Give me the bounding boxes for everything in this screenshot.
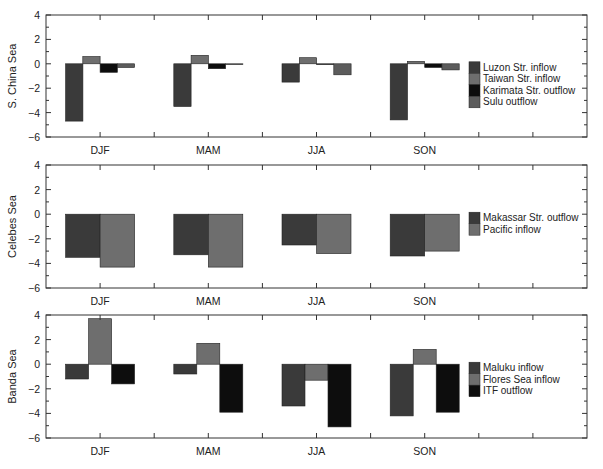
legend-label: Flores Sea inflow [483, 374, 560, 385]
bar [390, 214, 425, 256]
legend-swatch [469, 224, 480, 236]
bar [305, 364, 328, 380]
legend-label: Taiwan Str. inflow [483, 73, 561, 84]
legend-label: Pacific inflow [483, 224, 542, 235]
bar [317, 214, 352, 253]
legend-label: ITF outflow [483, 385, 533, 396]
bar [89, 319, 112, 365]
bar [208, 64, 225, 69]
bar [117, 64, 134, 68]
bar [112, 364, 135, 384]
bar [425, 214, 460, 251]
bar [425, 64, 442, 68]
bar [100, 64, 117, 73]
legend-swatch [469, 362, 480, 374]
legend: Makassar Str. outflowPacific inflow [469, 212, 579, 235]
x-tick-label: DJF [90, 445, 109, 457]
bar [407, 61, 424, 63]
bar [299, 58, 316, 64]
legend-label: Sulu outflow [483, 96, 538, 107]
y-tick-label: −6 [28, 131, 40, 143]
x-tick-label: JJA [308, 445, 326, 457]
bar [282, 64, 299, 82]
bar [334, 64, 351, 75]
bar [197, 343, 220, 364]
bar [174, 214, 209, 255]
legend-swatch [469, 73, 480, 85]
x-tick-label: DJF [90, 144, 109, 156]
x-tick-label: SON [413, 445, 436, 457]
bar [390, 364, 413, 416]
y-tick-label: 0 [34, 58, 40, 70]
legend: Maluku inflowFlores Sea inflowITF outflo… [469, 362, 560, 397]
y-tick-label: 4 [34, 309, 40, 321]
y-tick-label: −6 [28, 282, 40, 294]
bar [436, 364, 459, 412]
chart-figure: DJFMAMJJASON420−2−4−6S. China SeaLuzon S… [0, 0, 603, 469]
legend-label: Maluku inflow [483, 362, 544, 373]
y-tick-label: −2 [28, 233, 40, 245]
x-tick-label: DJF [90, 295, 109, 307]
bar [66, 364, 89, 379]
y-tick-label: −4 [28, 107, 40, 119]
y-tick-label: 2 [34, 334, 40, 346]
legend-swatch [469, 62, 480, 74]
bar [390, 64, 407, 120]
y-tick-label: −6 [28, 432, 40, 444]
legend-swatch [469, 96, 480, 108]
bar [66, 214, 101, 257]
legend-swatch [469, 85, 480, 97]
bar [174, 64, 191, 107]
bar [208, 214, 243, 267]
legend: Luzon Str. inflowTaiwan Str. inflowKarim… [469, 62, 576, 108]
x-tick-label: MAM [196, 144, 221, 156]
bar [226, 64, 243, 65]
bar [66, 64, 83, 121]
y-tick-label: −4 [28, 257, 40, 269]
bar [413, 349, 436, 364]
legend-label: Luzon Str. inflow [483, 62, 557, 73]
bar [174, 364, 197, 374]
y-tick-label: −2 [28, 383, 40, 395]
bar [282, 364, 305, 406]
x-tick-label: JJA [308, 144, 326, 156]
panel-banda-sea: DJFMAMJJASON420−2−4−6Banda SeaMaluku inf… [6, 309, 587, 457]
y-tick-label: 4 [34, 159, 40, 171]
bar [100, 214, 135, 267]
x-tick-label: MAM [196, 295, 221, 307]
y-tick-label: 2 [34, 184, 40, 196]
bar [191, 55, 208, 64]
bar [328, 364, 351, 427]
bar [220, 364, 243, 412]
y-axis-label: Celebes Sea [6, 194, 18, 258]
legend-swatch [469, 212, 480, 224]
y-tick-label: −2 [28, 82, 40, 94]
y-tick-label: 4 [34, 9, 40, 21]
bar [83, 57, 100, 64]
legend-swatch [469, 385, 480, 397]
bar [442, 64, 459, 70]
y-axis-label: Banda Sea [6, 348, 18, 403]
bar [282, 214, 317, 245]
y-tick-label: 0 [34, 358, 40, 370]
panel-celebes-sea: DJFMAMJJASON420−2−4−6Celebes SeaMakassar… [6, 159, 587, 307]
x-tick-label: SON [413, 295, 436, 307]
x-tick-label: MAM [196, 445, 221, 457]
x-tick-label: JJA [308, 295, 326, 307]
y-axis-label: S. China Sea [6, 43, 18, 109]
bar [317, 64, 334, 65]
y-tick-label: 2 [34, 33, 40, 45]
legend-label: Karimata Str. outflow [483, 85, 576, 96]
legend-swatch [469, 374, 480, 386]
y-tick-label: −4 [28, 407, 40, 419]
panel-s-china-sea: DJFMAMJJASON420−2−4−6S. China SeaLuzon S… [6, 9, 587, 156]
legend-label: Makassar Str. outflow [483, 212, 579, 223]
y-tick-label: 0 [34, 208, 40, 220]
x-tick-label: SON [413, 144, 436, 156]
